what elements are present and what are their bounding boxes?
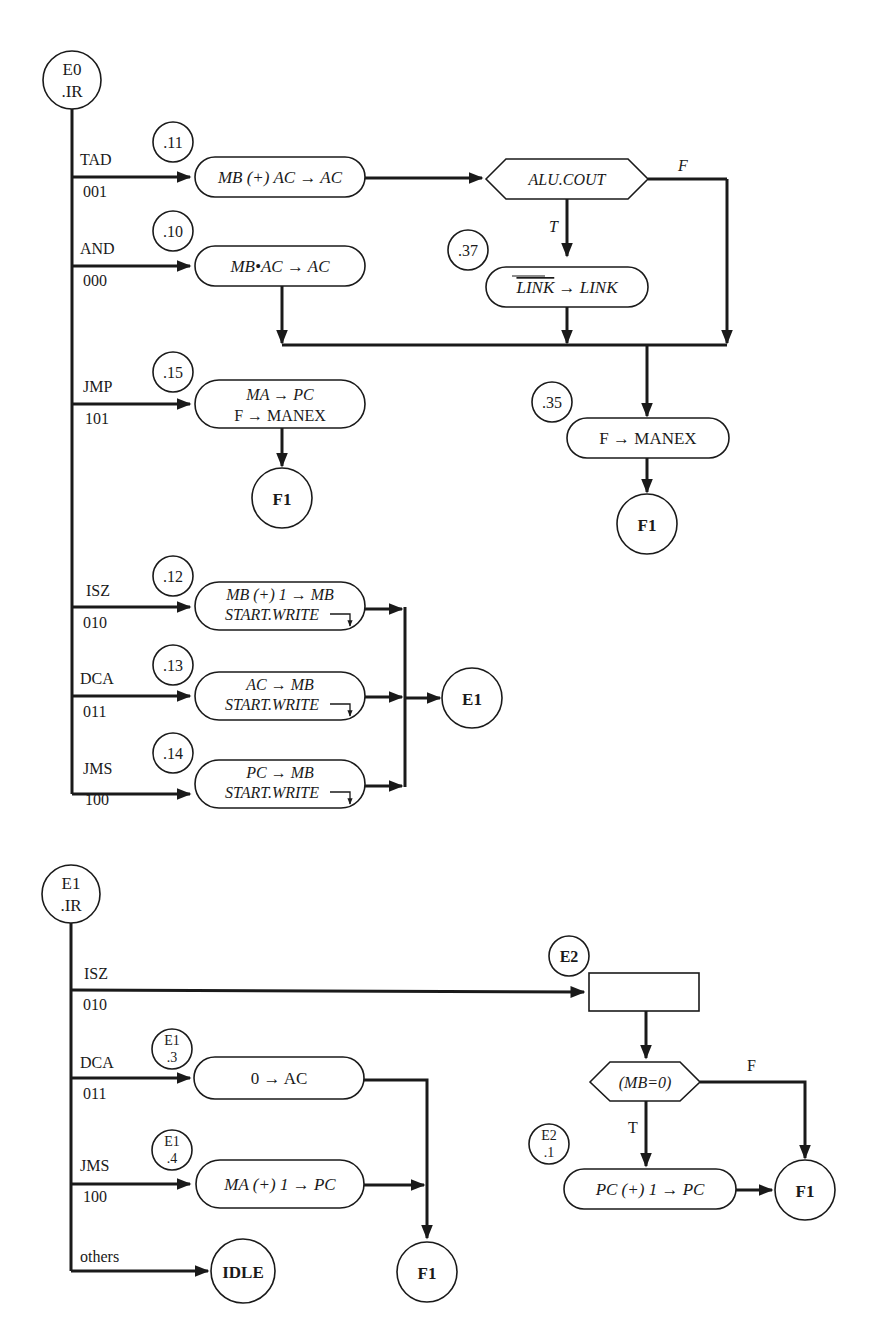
e0-branch-tad: TAD 001 .11 MB (+) AC → AC [72,122,482,200]
op-text-line2: F → MANEX [234,407,326,424]
svg-text:E1: E1 [462,690,482,709]
false-label: F [677,157,688,174]
opcode-label: JMP [83,378,112,395]
opcode-code: 101 [85,410,109,427]
opcode-label: TAD [80,151,112,168]
e0-branch-dca: DCA 011 .13 AC → MB START.WRITE [72,645,402,720]
opcode-label: others [80,1248,119,1265]
op-text: F → MANEX [599,429,696,448]
e1-section: E1 .IR ISZ 010 DCA 011 E1 .3 0 → AC JMS … [42,865,584,1303]
state-label: .11 [163,134,182,151]
svg-text:LINK → LINK: LINK → LINK [515,278,619,297]
link-rest-text: → LINK [554,278,619,297]
opcode-code: 010 [83,614,107,631]
true-label: T [549,218,559,235]
opcode-label: ISZ [86,582,110,599]
state-label: .15 [163,364,183,381]
op-text-line2: START.WRITE [225,784,319,801]
link-bar-text: LINK [515,278,555,297]
e0-section: E0 .IR TAD 001 .11 MB (+) AC → AC ALU.CO… [43,51,729,808]
opcode-code: 100 [85,791,109,808]
svg-text:F1: F1 [638,516,657,535]
state-label-line1: E2 [541,1128,557,1143]
e2-empty-box [589,973,699,1011]
e1-branch-isz: ISZ 010 [71,965,584,1013]
svg-text:IDLE: IDLE [222,1263,264,1282]
state-label: .12 [163,568,183,585]
opcode-code: 011 [83,703,106,720]
true-label: T [628,1119,638,1136]
opcode-label: JMS [80,1157,109,1174]
e0-state-line2: .IR [61,82,83,101]
svg-text:F1: F1 [273,490,292,509]
opcode-code: 100 [83,1188,107,1205]
op-text-line2: START.WRITE [225,606,319,623]
opcode-code: 000 [83,272,107,289]
opcode-code: 011 [83,1085,106,1102]
opcode-code: 010 [83,996,107,1013]
e0-branch-and: AND 000 .10 MB•AC → AC [72,211,365,343]
e0-branch-jms: JMS 100 .14 PC → MB START.WRITE [72,733,402,808]
opcode-code: 001 [83,183,107,200]
svg-text:F1: F1 [796,1182,815,1201]
e0-ir-state: E0 .IR [43,51,101,109]
state-label: .14 [163,745,183,762]
state-label-line1: E1 [164,1134,180,1149]
op-text: PC (+) 1 → PC [595,1180,705,1199]
svg-text:F1: F1 [418,1264,437,1283]
op-text-line1: AC → MB [245,676,314,693]
op-text-line1: PC → MB [245,764,314,781]
state-label-line2: .3 [167,1050,178,1065]
opcode-label: DCA [80,670,114,687]
state-label: .37 [458,242,478,259]
e1-branch-others: others IDLE [71,1239,275,1303]
link-op: .37 LINK → LINK [448,230,648,343]
pc-increment-op: E2 .1 PC (+) 1 → PC [529,1124,772,1209]
e0-state-line1: E0 [63,60,82,79]
op-text-line2: START.WRITE [225,696,319,713]
state-label-line1: E1 [164,1033,180,1048]
e1-state-line1: E1 [62,874,81,893]
op-text-line1: MB (+) 1 → MB [225,586,334,604]
e1-state-line2: .IR [60,896,82,915]
op-text-line1: MA → PC [245,386,314,403]
decision-text: (MB=0) [619,1074,672,1092]
e2-section: E2 (MB=0) F T E2 .1 PC (+) 1 → PC F1 [529,936,835,1220]
state-label: .35 [542,394,562,411]
op-text: 0 → AC [251,1069,308,1088]
e1-ir-state: E1 .IR [42,865,100,923]
mb-zero-decision: (MB=0) F T [590,1057,805,1166]
state-label-line2: .4 [167,1151,178,1166]
state-label: .10 [163,223,183,240]
opcode-label: ISZ [84,965,108,982]
state-label-line2: .1 [544,1145,555,1160]
op-text: MA (+) 1 → PC [223,1175,336,1194]
state-label: .13 [163,657,183,674]
manex-op: .35 F → MANEX F1 [532,382,729,554]
asm-flowchart: E0 .IR TAD 001 .11 MB (+) AC → AC ALU.CO… [0,0,874,1341]
e1-branch-jms: JMS 100 E1 .4 MA (+) 1 → PC [71,1130,424,1208]
opcode-label: AND [80,240,115,257]
alu-cout-decision: ALU.COUT F T [486,157,727,343]
e0-branch-jmp: JMP 101 .15 MA → PC F → MANEX F1 [72,352,365,528]
op-text: MB (+) AC → AC [217,168,343,187]
false-label: F [747,1057,756,1074]
opcode-label: DCA [80,1054,114,1071]
svg-text:E2: E2 [560,948,579,965]
e0-branch-isz: ISZ 010 .12 MB (+) 1 → MB START.WRITE [72,556,402,631]
decision-text: ALU.COUT [528,171,607,188]
op-text: MB•AC → AC [229,257,330,276]
opcode-label: JMS [83,760,112,777]
